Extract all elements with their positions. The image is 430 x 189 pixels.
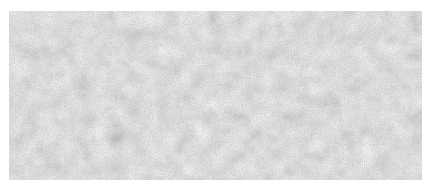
texture-swatch [9,11,422,180]
texture-noise [9,11,422,180]
